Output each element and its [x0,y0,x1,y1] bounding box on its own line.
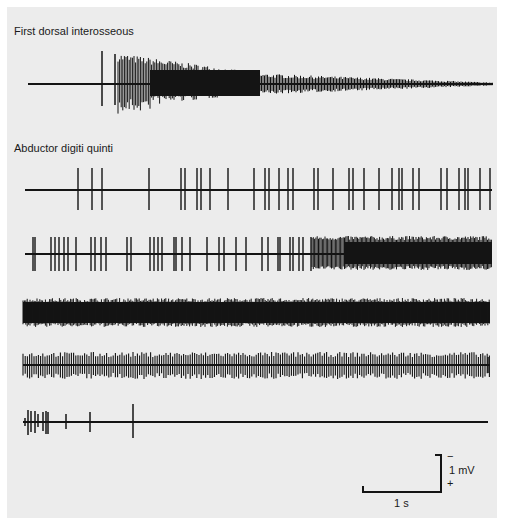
trace-first-dorsal-interosseous [28,51,493,114]
scale-voltage-label: 1 mV [449,464,475,476]
scale-minus: − [447,450,453,462]
trace-adq-5 [23,404,488,438]
scale-bar [363,455,441,492]
trace-adq-1 [25,168,492,210]
trace-adq-2 [25,236,492,271]
trace-adq-4 [23,352,490,379]
emg-traces [0,0,506,526]
scale-plus: + [447,477,453,489]
scale-time-label: 1 s [394,497,409,509]
trace-adq-3 [23,298,490,327]
